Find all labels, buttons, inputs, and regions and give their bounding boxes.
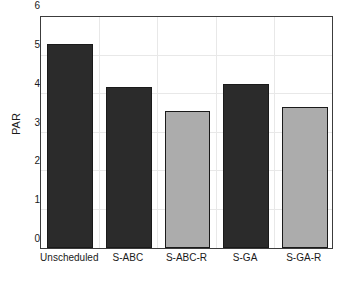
bar xyxy=(223,84,269,248)
y-axis-tick-label: 0 xyxy=(14,234,40,244)
plot-area xyxy=(40,16,333,249)
x-axis-tick-labels: UnscheduledS-ABCS-ABC-RS-GAS-GA-R xyxy=(40,252,333,268)
x-axis-tick-label: S-GA xyxy=(233,252,257,263)
y-axis-tick-labels: 0123456 xyxy=(0,16,40,249)
bar xyxy=(282,107,328,248)
y-axis-tick-label: 1 xyxy=(14,195,40,205)
y-axis-tick-label: 5 xyxy=(14,40,40,50)
bar-series xyxy=(41,17,332,248)
y-axis-tick-label: 6 xyxy=(14,1,40,11)
bar xyxy=(165,111,211,248)
x-axis-tick-label: Unscheduled xyxy=(40,252,98,263)
x-axis-tick-label: S-GA-R xyxy=(286,252,321,263)
y-axis-tick-label: 4 xyxy=(14,79,40,89)
y-axis-tick-label: 3 xyxy=(14,118,40,128)
bar-chart-figure: PAR 0123456 UnscheduledS-ABCS-ABC-RS-GAS… xyxy=(0,0,351,281)
bar xyxy=(47,44,93,248)
x-axis-tick-label: S-ABC xyxy=(113,252,144,263)
bar xyxy=(106,87,152,248)
x-axis-tick-label: S-ABC-R xyxy=(166,252,207,263)
y-axis-tick-label: 2 xyxy=(14,156,40,166)
